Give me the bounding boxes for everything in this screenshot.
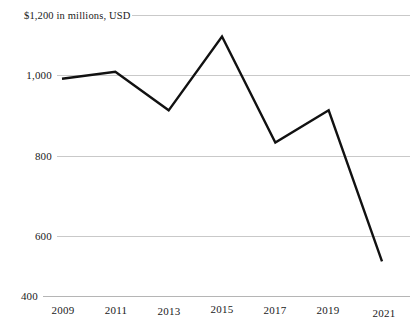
series-line xyxy=(62,37,382,262)
chart-plot-area: $1,200 in millions, USD 1,000 800 600 40… xyxy=(0,0,418,328)
x-tick-2021: 2021 xyxy=(373,307,396,319)
x-tick-2009: 2009 xyxy=(52,304,75,316)
x-tick-2019: 2019 xyxy=(317,304,340,316)
y-tick-800: 800 xyxy=(35,150,52,162)
line-chart-figure: $1,200 in millions, USD 1,000 800 600 40… xyxy=(0,0,418,328)
x-axis-labels: 2009 2011 2013 2015 2017 2019 2021 xyxy=(52,303,396,319)
x-tick-2017: 2017 xyxy=(264,304,287,316)
unit-label: $1,200 in millions, USD xyxy=(24,10,131,21)
gridlines-group xyxy=(43,16,410,297)
y-tick-600: 600 xyxy=(35,230,52,242)
y-axis-labels: 1,000 800 600 400 xyxy=(21,69,52,302)
x-tick-2011: 2011 xyxy=(105,304,127,316)
x-tick-2015: 2015 xyxy=(211,303,234,315)
y-tick-400: 400 xyxy=(21,290,38,302)
y-tick-1000: 1,000 xyxy=(26,69,52,81)
x-tick-2013: 2013 xyxy=(158,305,181,317)
